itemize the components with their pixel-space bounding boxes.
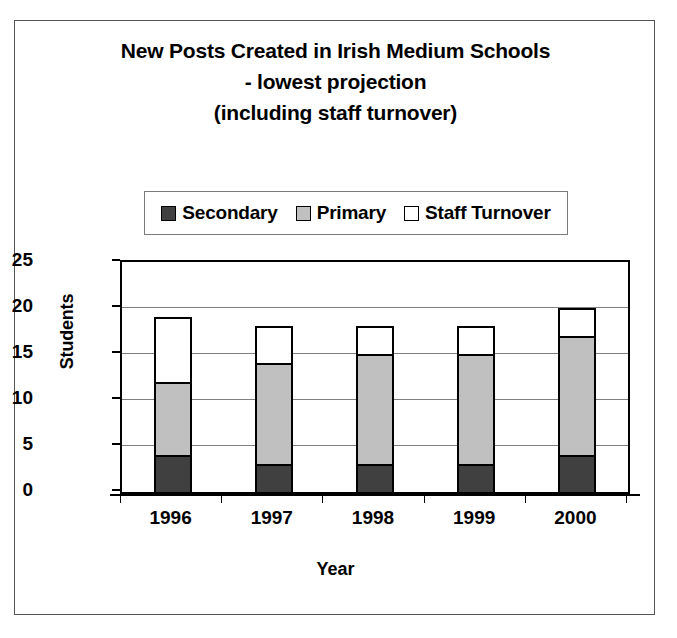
legend-swatch-staff-turnover (404, 206, 419, 221)
y-tick-label: 25 (0, 249, 33, 271)
y-tick-label: 20 (0, 295, 33, 317)
plot-frame (120, 260, 630, 494)
bar-segment-staff-turnover (558, 308, 596, 336)
bar-1998 (356, 326, 394, 492)
legend-swatch-secondary (161, 206, 176, 221)
plot-area (122, 262, 628, 492)
bar-segment-secondary (356, 464, 394, 492)
y-tick-mark (112, 397, 120, 399)
legend-item-primary: Primary (296, 202, 386, 224)
bar-segment-staff-turnover (255, 326, 293, 363)
y-tick-mark (112, 305, 120, 307)
legend-item-secondary: Secondary (161, 202, 277, 224)
bar-segment-primary (255, 363, 293, 464)
bar-segment-secondary (457, 464, 495, 492)
bar-segment-staff-turnover (457, 326, 495, 354)
y-tick-label: 15 (0, 341, 33, 363)
gridline (122, 307, 628, 308)
x-tick-mark (322, 494, 323, 503)
bar-1996 (154, 317, 192, 492)
bar-1997 (255, 326, 293, 492)
bar-segment-primary (154, 382, 192, 456)
chart-figure: New Posts Created in Irish Medium School… (14, 20, 655, 615)
x-tick-label: 2000 (530, 507, 620, 529)
chart-legend: Secondary Primary Staff Turnover (144, 191, 568, 235)
bar-segment-primary (457, 354, 495, 464)
y-tick-mark (112, 351, 120, 353)
y-tick-mark (112, 489, 120, 491)
x-tick-label: 1998 (328, 507, 418, 529)
bar-2000 (558, 308, 596, 492)
legend-item-staff-turnover: Staff Turnover (404, 202, 551, 224)
y-tick-mark (112, 443, 120, 445)
bar-segment-staff-turnover (356, 326, 394, 354)
x-axis-label: Year (15, 559, 656, 580)
x-tick-mark (626, 494, 627, 503)
bar-segment-staff-turnover (154, 317, 192, 381)
x-axis-line (110, 494, 640, 496)
x-tick-label: 1999 (429, 507, 519, 529)
legend-label-primary: Primary (317, 202, 386, 224)
legend-label-secondary: Secondary (182, 202, 277, 224)
bar-segment-secondary (255, 464, 293, 492)
bar-segment-secondary (558, 455, 596, 492)
y-tick-mark (112, 259, 120, 261)
legend-swatch-primary (296, 206, 311, 221)
chart-title-line-2: - lowest projection (15, 66, 656, 97)
y-tick-label: 5 (0, 433, 33, 455)
bar-segment-secondary (154, 455, 192, 492)
x-tick-mark (221, 494, 222, 503)
bar-1999 (457, 326, 495, 492)
y-axis-label: Students (57, 272, 78, 392)
x-tick-mark (424, 494, 425, 503)
x-tick-label: 1996 (126, 507, 216, 529)
legend-label-staff-turnover: Staff Turnover (425, 202, 551, 224)
x-tick-mark (525, 494, 526, 503)
bar-segment-primary (356, 354, 394, 464)
chart-title-line-3: (including staff turnover) (15, 97, 656, 128)
chart-title: New Posts Created in Irish Medium School… (15, 35, 656, 128)
chart-title-line-1: New Posts Created in Irish Medium School… (15, 35, 656, 66)
y-tick-label: 10 (0, 387, 33, 409)
x-tick-label: 1997 (227, 507, 317, 529)
x-tick-mark (120, 494, 121, 503)
y-tick-label: 0 (0, 479, 33, 501)
bar-segment-primary (558, 336, 596, 456)
